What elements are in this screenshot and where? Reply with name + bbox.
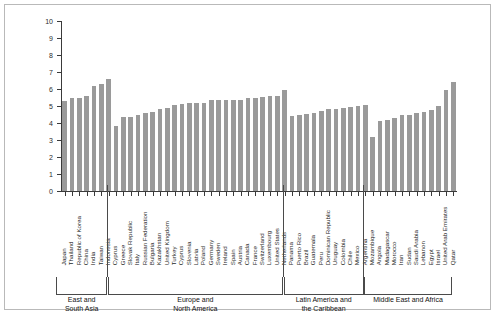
- region-label-line: South Asia: [56, 305, 107, 314]
- bar: [121, 117, 126, 191]
- bar-item: [231, 21, 236, 191]
- bar: [231, 100, 236, 191]
- bar: [77, 98, 82, 192]
- region-bracket: [284, 277, 364, 295]
- bar: [444, 90, 449, 191]
- x-axis-tick-label: Panama: [288, 242, 294, 265]
- y-axis-tick: [57, 72, 61, 73]
- bar: [436, 106, 441, 191]
- bar-item: [312, 21, 317, 191]
- x-axis-tick-label: United Kingdom: [164, 221, 170, 265]
- bar-item: [187, 21, 192, 191]
- bar-item: [62, 21, 67, 191]
- x-axis-tick-label: Egypt: [428, 249, 434, 265]
- bar-item: [238, 21, 243, 191]
- y-axis-tick-label: 9: [35, 35, 53, 42]
- x-axis-tick-label: Greece: [120, 245, 126, 265]
- bar: [99, 84, 104, 191]
- region-separator: [283, 185, 284, 277]
- x-axis-tick-label: United States: [274, 228, 280, 265]
- bar: [268, 96, 273, 191]
- bar: [407, 115, 412, 192]
- bar: [202, 103, 207, 191]
- bar-item: [385, 21, 390, 191]
- bar-item: [224, 21, 229, 191]
- y-axis-tick: [57, 21, 61, 22]
- region-bracket: [364, 277, 451, 295]
- bar: [143, 113, 148, 191]
- bar: [341, 108, 346, 191]
- bar-item: [451, 21, 456, 191]
- bar-item: [326, 21, 331, 191]
- bar-item: [150, 21, 155, 191]
- y-axis-tick-label: 8: [35, 52, 53, 59]
- region-bracket: [56, 277, 107, 295]
- bar-item: [106, 21, 111, 191]
- x-axis-tick-label: Luxembourg: [266, 231, 272, 265]
- x-axis-tick-label: Iran: [398, 254, 404, 265]
- bar: [282, 90, 287, 191]
- x-axis-tick-label: Uruguay: [332, 242, 338, 265]
- bar-series: [61, 21, 457, 191]
- bar-item: [297, 21, 302, 191]
- bar: [194, 103, 199, 191]
- bar-item: [84, 21, 89, 191]
- bar: [253, 98, 258, 192]
- bar: [260, 97, 265, 191]
- x-axis-tick-label: Russian Federation: [142, 211, 148, 265]
- y-axis-tick-label: 10: [35, 18, 53, 25]
- bar-item: [202, 21, 207, 191]
- bar-item: [356, 21, 361, 191]
- y-axis-tick-label: 7: [35, 69, 53, 76]
- x-axis-tick-label: Italy: [134, 254, 140, 265]
- x-axis-tick-label: Kazakhstan: [156, 233, 162, 265]
- bar-item: [275, 21, 280, 191]
- x-axis-tick-label: Spain: [230, 249, 236, 265]
- bar-item: [92, 21, 97, 191]
- region-label-line: North America: [108, 305, 283, 314]
- bar: [304, 114, 309, 191]
- y-axis-tick-label: 0: [35, 188, 53, 195]
- region-label: Latin America andthe Caribbean: [284, 296, 364, 313]
- bar-item: [77, 21, 82, 191]
- bar-item: [407, 21, 412, 191]
- x-axis-tick-label: Canada: [244, 243, 250, 265]
- bar: [312, 113, 317, 191]
- x-axis-tick-label: Guatemala: [310, 235, 316, 265]
- bar-item: [378, 21, 383, 191]
- bar: [363, 105, 368, 191]
- bar: [172, 105, 177, 191]
- bar-item: [158, 21, 163, 191]
- bar: [128, 117, 133, 191]
- region-separator: [107, 185, 108, 277]
- bar: [414, 113, 419, 191]
- bar: [319, 111, 324, 191]
- x-axis-tick-label: United Arab Emirates: [442, 207, 448, 265]
- bar-item: [304, 21, 309, 191]
- bar-item: [70, 21, 75, 191]
- x-axis-tick-label: Colombia: [340, 239, 346, 265]
- bar-item: [392, 21, 397, 191]
- bar: [348, 107, 353, 191]
- region-label-line: Latin America and: [284, 296, 364, 305]
- bar-item: [444, 21, 449, 191]
- x-axis-tick-label: Angola: [376, 246, 382, 265]
- bar: [297, 115, 302, 191]
- bar-item: [400, 21, 405, 191]
- x-axis-tick-label: Cyprus: [112, 245, 118, 265]
- y-axis-tick: [57, 106, 61, 107]
- bar-item: [436, 21, 441, 191]
- region-label: East andSouth Asia: [56, 296, 107, 313]
- region-label-line: the Caribbean: [284, 305, 364, 314]
- x-axis-tick-label: Taiwan: [98, 246, 104, 265]
- bar-item: [114, 21, 119, 191]
- bar-item: [194, 21, 199, 191]
- bar-item: [290, 21, 295, 191]
- bar: [238, 100, 243, 191]
- bar: [187, 103, 192, 191]
- bar-item: [348, 21, 353, 191]
- region-label-line: East and: [56, 296, 107, 305]
- bar: [400, 115, 405, 191]
- x-axis-tick-label: Germany: [208, 240, 214, 265]
- region-bracket: [108, 277, 283, 295]
